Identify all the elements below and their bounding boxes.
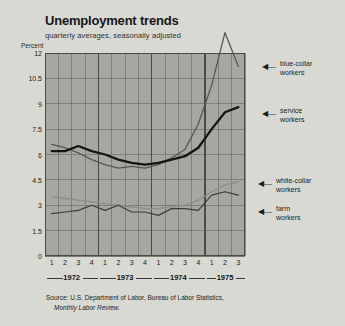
year-rule: [189, 278, 205, 279]
y-axis-ticks: 01.534.567.5910.512: [14, 53, 42, 256]
x-tick-quarter: 3: [183, 259, 187, 266]
callout-service-workers: service workers: [280, 106, 305, 124]
y-tick-label: 10.5: [16, 75, 42, 82]
unemployment-trends-figure: Unemployment trends quarterly averages, …: [0, 0, 345, 326]
y-tick-label: 7.5: [16, 126, 42, 133]
source-line-1: Source: U.S. Department of Labor, Bureau…: [46, 293, 224, 303]
series-line-white-collar-workers: [52, 182, 239, 209]
blue-collar-arrow-icon: ◀—: [262, 63, 276, 71]
x-axis-year-label: 1974: [170, 273, 187, 282]
white-collar-arrow-icon: ◀—: [258, 180, 272, 188]
x-tick-quarter: 2: [170, 259, 174, 266]
callout-white-collar-workers: white-collar workers: [276, 176, 311, 194]
x-axis-year-band: 1972197319741975: [45, 272, 245, 286]
y-tick-label: 4.5: [16, 176, 42, 183]
chart-svg: [45, 53, 245, 256]
x-tick-quarter: 1: [156, 259, 160, 266]
x-tick-quarter: 2: [116, 259, 120, 266]
y-tick-label: 12: [16, 50, 42, 57]
year-rule: [154, 278, 170, 279]
year-rule: [83, 278, 99, 279]
x-tick-quarter: 1: [210, 259, 214, 266]
x-tick-quarter: 3: [76, 259, 80, 266]
callout-blue-collar-workers: blue-collar workers: [280, 59, 312, 77]
service-arrow-icon: ◀—: [262, 110, 276, 118]
x-axis-year-label: 1973: [117, 273, 134, 282]
year-rule: [236, 278, 245, 279]
farm-arrow-icon: ◀—: [258, 208, 272, 216]
source-line-2: Monthly Labor Review.: [46, 303, 224, 313]
series-line-service-workers: [52, 107, 239, 165]
series-line-farm-workers: [52, 192, 239, 216]
plot-canvas: [45, 53, 245, 256]
source-note: Source: U.S. Department of Labor, Bureau…: [46, 293, 224, 312]
year-rule: [136, 278, 152, 279]
x-axis-year-label: 1972: [63, 273, 80, 282]
chart-subtitle: quarterly averages, seasonally adjusted: [45, 31, 181, 40]
x-axis-year-label: 1975: [217, 273, 234, 282]
x-tick-quarter: 2: [223, 259, 227, 266]
callout-farm-workers: farm workers: [276, 204, 301, 222]
plot-area: [45, 53, 245, 256]
y-tick-label: 1.5: [16, 227, 42, 234]
x-tick-quarter: 4: [143, 259, 147, 266]
x-tick-quarter: 1: [103, 259, 107, 266]
x-tick-quarter: 3: [236, 259, 240, 266]
page-title: Unemployment trends: [45, 13, 178, 28]
year-rule: [100, 278, 116, 279]
y-axis-caption: Percent: [21, 42, 43, 49]
y-tick-label: 6: [16, 151, 42, 158]
year-rule: [47, 278, 63, 279]
x-tick-quarter: 4: [196, 259, 200, 266]
year-rule: [207, 278, 216, 279]
y-tick-label: 9: [16, 100, 42, 107]
x-axis-quarter-ticks: 123412341234123: [45, 259, 245, 271]
y-tick-label: 3: [16, 202, 42, 209]
x-tick-quarter: 2: [63, 259, 67, 266]
y-tick-label: 0: [16, 253, 42, 260]
x-tick-quarter: 1: [50, 259, 54, 266]
x-tick-quarter: 3: [130, 259, 134, 266]
x-tick-quarter: 4: [90, 259, 94, 266]
